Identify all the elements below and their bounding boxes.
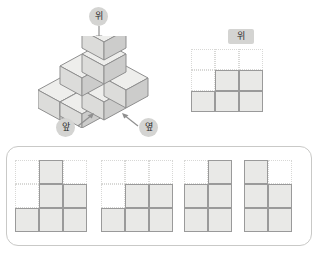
label-top-badge: 위 — [89, 7, 108, 26]
grid-cell-filled — [125, 208, 149, 232]
grid-cell-empty — [101, 184, 125, 208]
grid-cell-filled — [244, 184, 268, 208]
grid-cell-empty — [101, 160, 125, 184]
grid-cell-filled — [215, 70, 239, 91]
option-1-grid — [15, 160, 87, 232]
grid-cell-filled — [191, 91, 215, 112]
grid-cell-filled — [239, 70, 263, 91]
option-3[interactable] — [184, 160, 232, 232]
arrow-up-left-icon — [121, 112, 139, 128]
option-1[interactable] — [15, 160, 87, 232]
option-3-grid — [184, 160, 232, 232]
grid-cell-empty — [191, 49, 215, 70]
option-4[interactable] — [244, 160, 292, 232]
grid-cell-filled — [39, 184, 63, 208]
option-4-grid — [244, 160, 292, 232]
label-front-badge: 앞 — [56, 118, 75, 137]
label-side-badge: 옆 — [139, 118, 158, 137]
grid-cell-empty — [149, 160, 173, 184]
grid-cell-filled — [101, 208, 125, 232]
grid-cell-filled — [244, 208, 268, 232]
cube-solid — [38, 36, 178, 128]
grid-cell-filled — [244, 160, 268, 184]
grid-cell-empty — [125, 160, 149, 184]
grid-cell-filled — [239, 91, 263, 112]
grid-cell-filled — [15, 208, 39, 232]
option-2[interactable] — [101, 160, 173, 232]
option-2-grid — [101, 160, 173, 232]
arrow-up-right-icon — [77, 112, 95, 128]
grid-cell-filled — [184, 208, 208, 232]
figure-root: 위 — [0, 0, 320, 254]
grid-cell-filled — [63, 208, 87, 232]
cube-solid-svg — [38, 36, 178, 128]
grid-cell-filled — [208, 208, 232, 232]
grid-cell-filled — [39, 208, 63, 232]
grid-cell-filled — [63, 184, 87, 208]
grid-cell-empty — [239, 49, 263, 70]
grid-cell-filled — [268, 184, 292, 208]
grid-cell-filled — [125, 184, 149, 208]
grid-cell-empty — [15, 160, 39, 184]
grid-cell-empty — [268, 160, 292, 184]
grid-cell-empty — [15, 184, 39, 208]
grid-cell-filled — [215, 91, 239, 112]
grid-cell-filled — [184, 184, 208, 208]
grid-cell-filled — [268, 208, 292, 232]
top-view-badge: 위 — [228, 29, 254, 44]
grid-cell-empty — [63, 160, 87, 184]
grid-cell-filled — [39, 160, 63, 184]
top-view-grid — [191, 49, 263, 112]
grid-cell-filled — [149, 208, 173, 232]
grid-cell-filled — [208, 184, 232, 208]
grid-cell-filled — [208, 160, 232, 184]
grid-cell-empty — [215, 49, 239, 70]
grid-cell-empty — [191, 70, 215, 91]
grid-cell-empty — [184, 160, 208, 184]
grid-cell-filled — [149, 184, 173, 208]
